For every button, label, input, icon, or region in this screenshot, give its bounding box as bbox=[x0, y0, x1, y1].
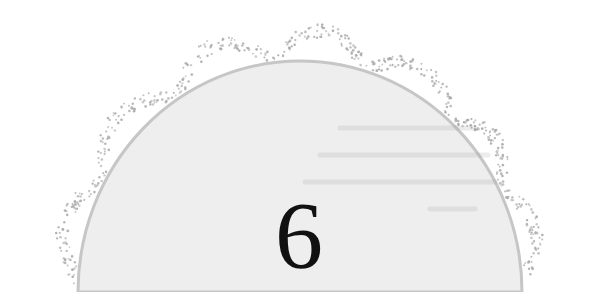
page-margin bbox=[0, 292, 594, 308]
chapter-opener-graphic: 6 bbox=[0, 0, 594, 308]
chapter-number: 6 bbox=[0, 188, 594, 284]
